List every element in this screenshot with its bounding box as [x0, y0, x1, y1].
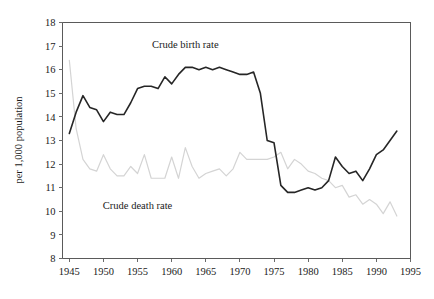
y-tick-label: 13 [45, 135, 56, 146]
x-tick-label: 1945 [59, 266, 80, 277]
y-tick-label: 16 [45, 64, 56, 75]
x-tick-label: 1985 [332, 266, 353, 277]
crude-birth-and-death-rate-line-chart: 89101112131415161718 1945195019551960196… [0, 0, 434, 299]
series-lines [69, 60, 397, 216]
y-axis-title: per 1,000 population [13, 96, 24, 184]
x-tick-label: 1955 [127, 266, 148, 277]
x-tick-label: 1970 [229, 266, 250, 277]
x-tick-label: 1975 [264, 266, 285, 277]
y-tick-label: 12 [45, 159, 56, 170]
series-annotations: Crude birth rateCrude death rate [103, 39, 219, 210]
series-line-crude-birth-rate [69, 67, 397, 192]
plot-frame [63, 23, 411, 259]
series-label-crude-death-rate: Crude death rate [103, 200, 173, 211]
y-tick-label: 9 [50, 230, 55, 241]
x-tick-label: 1990 [366, 266, 387, 277]
x-axis-ticks [69, 259, 410, 263]
series-line-crude-death-rate [69, 60, 397, 216]
y-tick-label: 18 [45, 17, 56, 28]
x-tick-label: 1960 [161, 266, 182, 277]
y-tick-label: 8 [50, 253, 55, 264]
x-axis-tick-labels: 1945195019551960196519701975198019851990… [59, 266, 421, 277]
y-axis-tick-labels: 89101112131415161718 [45, 17, 56, 264]
x-tick-label: 1950 [93, 266, 114, 277]
series-label-crude-birth-rate: Crude birth rate [152, 39, 219, 50]
y-tick-label: 17 [45, 41, 56, 52]
x-tick-label: 1995 [400, 266, 421, 277]
y-tick-label: 14 [45, 112, 56, 123]
chart-container: 89101112131415161718 1945195019551960196… [0, 0, 434, 299]
y-tick-label: 15 [45, 88, 56, 99]
y-axis-ticks [59, 23, 63, 259]
y-tick-label: 11 [45, 182, 55, 193]
x-tick-label: 1980 [298, 266, 319, 277]
x-tick-label: 1965 [195, 266, 216, 277]
y-tick-label: 10 [45, 206, 56, 217]
